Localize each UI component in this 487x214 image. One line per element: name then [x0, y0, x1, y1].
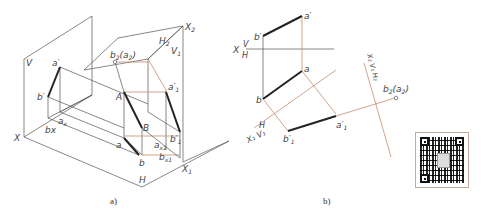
h2-plane	[84, 26, 183, 70]
label-V: V	[243, 40, 249, 49]
label-b2-a2: b2(a2)	[383, 84, 409, 95]
label-X1: X1	[181, 164, 192, 175]
segment-a1-b1	[288, 116, 336, 131]
qr-pattern	[420, 137, 464, 183]
proj-line	[115, 62, 124, 92]
label-X: X	[13, 133, 21, 143]
proj-line	[60, 67, 148, 104]
label-b: b	[139, 158, 145, 168]
qr-finder	[420, 137, 429, 146]
construction-line	[302, 71, 336, 114]
x1-axis	[183, 141, 229, 162]
construction-line	[148, 59, 166, 90]
label-a-x: ax	[58, 116, 68, 127]
label-b-x1: bx1	[159, 152, 172, 163]
label-X: X	[232, 45, 240, 55]
label-B: B	[143, 123, 149, 133]
segment-a-prime-b-prime	[48, 67, 60, 97]
label-a-x1: ax1	[154, 140, 167, 151]
diagram-canvas: V X H a′ b′ ax bx A B a b ax1 bx1 a′1 b′…	[0, 0, 487, 214]
label-a: a	[116, 140, 122, 150]
label-b1-prime: b′1	[283, 134, 295, 145]
qr-finder	[420, 174, 429, 183]
caption-b: b)	[323, 196, 331, 206]
label-a-prime: a′	[52, 58, 60, 68]
qr-finder	[455, 137, 464, 146]
qr-code-icon	[415, 132, 469, 188]
point-b2-a2	[394, 96, 398, 100]
label-X2-V1-H2: X₂ V₁ H₂	[365, 52, 380, 82]
proj-line	[148, 112, 180, 132]
segment-a-prime-b-prime	[263, 16, 302, 36]
label-b-prime: b′	[37, 92, 45, 102]
h-plane-outline	[24, 137, 229, 187]
label-H: H	[242, 51, 248, 60]
label-a1-prime: a′1	[336, 120, 347, 131]
label-a-prime: a′	[304, 11, 312, 21]
label-H: H	[139, 175, 146, 185]
proj-line	[48, 95, 92, 118]
label-a: a	[304, 64, 310, 74]
label-V: V	[26, 58, 33, 68]
label-X2: X2	[184, 22, 195, 33]
label-a1-prime: a′1	[168, 82, 179, 93]
caption-a: a)	[110, 196, 117, 206]
proj-line	[60, 112, 124, 138]
label-A: A	[115, 92, 122, 102]
label-X1-V1: X₁ V₁	[244, 128, 267, 145]
figure-a: V X H a′ b′ ax bx A B a b ax1 bx1 a′1 b′…	[13, 16, 229, 206]
segment-a1-b1	[166, 92, 180, 132]
construction-line	[263, 99, 288, 131]
label-H2: H2	[159, 36, 170, 47]
label-b-x: bx	[45, 125, 57, 135]
label-b: b	[256, 95, 262, 105]
label-V1: V1	[171, 46, 181, 57]
construction-line	[336, 98, 395, 116]
segment-ab	[263, 71, 302, 99]
qr-logo	[437, 153, 450, 168]
label-b2-a2: b2(a2)	[110, 50, 136, 61]
label-b-prime: b′	[254, 32, 262, 42]
segment-ab	[124, 138, 139, 155]
figure-b: X V H a′ b′ a b H X₁ V₁ a′1 b′1 b2(a2) X…	[232, 11, 409, 206]
